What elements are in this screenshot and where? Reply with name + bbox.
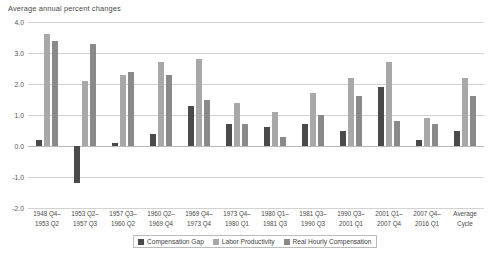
bar <box>112 143 119 146</box>
legend-swatch-icon <box>138 239 144 245</box>
y-tick-label: -2.0 <box>12 205 24 212</box>
y-tick-label: 2.0 <box>15 81 24 88</box>
bar <box>74 146 81 183</box>
x-axis-group-label: 1960 Q2–1969 Q4 <box>142 209 180 228</box>
legend-item[interactable]: Compensation Gap <box>138 238 204 245</box>
chart-figure: Average annual percent changes 4.03.02.0… <box>0 0 491 262</box>
bar <box>454 131 461 147</box>
bar <box>462 78 469 146</box>
bar <box>90 44 97 146</box>
x-axis-group-label: 1953 Q2–1957 Q3 <box>66 209 104 228</box>
bar <box>36 140 43 146</box>
x-axis-group-label: 1973 Q4–1980 Q1 <box>218 209 256 228</box>
legend-swatch-icon <box>284 239 290 245</box>
bar <box>280 137 287 146</box>
y-tick-label: -1.0 <box>12 174 24 181</box>
y-tick-label: 0.0 <box>15 143 24 150</box>
x-axis-labels: 1948 Q4–1953 Q21953 Q2–1957 Q31957 Q3–19… <box>28 209 484 235</box>
y-tick-label: 4.0 <box>15 19 24 26</box>
bar <box>188 106 195 146</box>
bar <box>310 93 317 146</box>
bar <box>242 124 249 146</box>
bar <box>348 78 355 146</box>
x-axis-group-label: 2007 Q4–2016 Q1 <box>408 209 446 228</box>
x-axis-group-label: 1980 Q1–1981 Q3 <box>256 209 294 228</box>
legend-label: Labor Productivity <box>222 238 275 245</box>
plot-area: 4.03.02.01.00.0-1.0-2.0 <box>28 22 484 208</box>
y-tick-label: 1.0 <box>15 112 24 119</box>
bar <box>318 115 325 146</box>
bar <box>196 59 203 146</box>
x-axis-group-label: 2001 Q1–2007 Q4 <box>370 209 408 228</box>
bar <box>394 121 401 146</box>
chart-title: Average annual percent changes <box>8 4 121 13</box>
bar <box>356 96 363 146</box>
legend-label: Compensation Gap <box>147 238 204 245</box>
legend-item[interactable]: Real Hourly Compensation <box>284 238 372 245</box>
bar <box>378 87 385 146</box>
x-axis-group-label: 1981 Q3–1990 Q3 <box>294 209 332 228</box>
bar <box>470 96 477 146</box>
x-axis-group-label: 1957 Q3–1960 Q2 <box>104 209 142 228</box>
y-tick-label: 3.0 <box>15 50 24 57</box>
x-axis-group-label: 1969 Q4–1973 Q4 <box>180 209 218 228</box>
bar <box>158 62 165 146</box>
bar <box>234 103 241 146</box>
x-axis-group-label: 1948 Q4–1953 Q2 <box>28 209 66 228</box>
legend-label: Real Hourly Compensation <box>293 238 372 245</box>
bar <box>264 127 271 146</box>
x-axis-group-label: 1990 Q3–2001 Q1 <box>332 209 370 228</box>
bar <box>166 75 173 146</box>
bar <box>386 62 393 146</box>
bar <box>44 34 51 146</box>
legend-item[interactable]: Labor Productivity <box>213 238 275 245</box>
bar <box>226 124 233 146</box>
bars-layer <box>28 22 484 208</box>
bar <box>128 72 135 146</box>
bar <box>302 124 309 146</box>
bar <box>82 81 89 146</box>
bar <box>52 41 59 146</box>
bar <box>416 140 423 146</box>
bar <box>272 112 279 146</box>
bar <box>424 118 431 146</box>
bar <box>120 75 127 146</box>
bar <box>340 131 347 147</box>
bar <box>150 134 157 146</box>
bar <box>204 100 211 147</box>
x-axis-group-label: AverageCycle <box>446 209 484 228</box>
bar <box>432 124 439 146</box>
chart-legend: Compensation GapLabor ProductivityReal H… <box>133 235 377 248</box>
legend-swatch-icon <box>213 239 219 245</box>
